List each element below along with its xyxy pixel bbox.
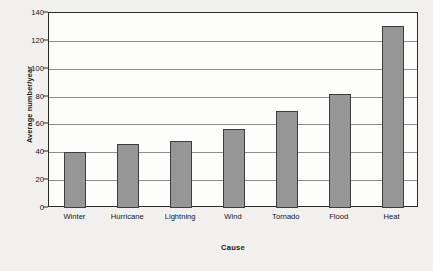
y-axis-tick-label: 60	[4, 119, 44, 128]
bar	[223, 129, 245, 208]
bar	[276, 111, 298, 209]
y-axis-tick-label: 0	[4, 203, 44, 212]
bar	[117, 144, 139, 208]
y-axis-tick-label: 120	[4, 35, 44, 44]
y-axis-tick-label: 100	[4, 63, 44, 72]
plot-area	[48, 12, 418, 207]
gridline	[49, 97, 417, 98]
gridline	[49, 41, 417, 42]
x-axis-tick-label: Winter	[63, 212, 85, 221]
bar	[64, 152, 86, 208]
x-axis-tick-label: Tornado	[272, 212, 299, 221]
x-axis-tick-label: Hurricane	[111, 212, 144, 221]
bar	[382, 26, 404, 208]
x-axis-tick-label: Wind	[224, 212, 241, 221]
gridline	[49, 69, 417, 70]
y-axis-tick-label: 80	[4, 91, 44, 100]
y-axis-title: Average number/year	[25, 25, 34, 185]
y-axis-tick-label: 40	[4, 147, 44, 156]
x-axis-tick-label: Lightning	[165, 212, 196, 221]
y-axis-tick-label: 140	[4, 8, 44, 17]
bar-chart-figure: Average number/year 020406080100120140 W…	[0, 0, 433, 271]
x-axis-tick-label: Flood	[329, 212, 348, 221]
bar	[329, 94, 351, 208]
y-axis-tick-label: 20	[4, 175, 44, 184]
gridline	[49, 124, 417, 125]
x-axis-tick-label: Heat	[384, 212, 400, 221]
bar	[170, 141, 192, 208]
x-axis-title: Cause	[48, 243, 418, 252]
